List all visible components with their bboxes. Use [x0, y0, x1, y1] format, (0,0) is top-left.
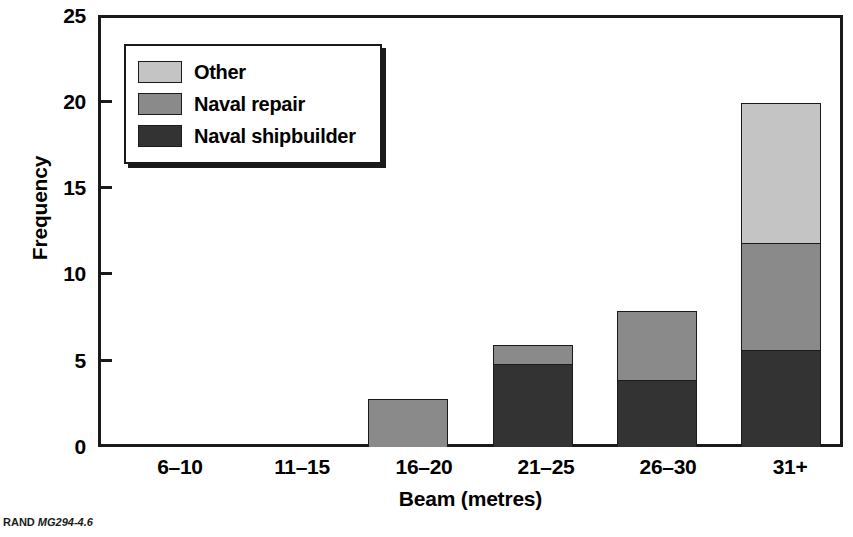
- x-tick-label-11-15: 11–15: [260, 455, 344, 479]
- bar-group-16-20: [368, 399, 448, 447]
- footer-document-id: MG294-4.6: [38, 516, 93, 528]
- bar-segment-naval-repair: [617, 311, 697, 380]
- bar-segment-naval-shipbuilder: [493, 364, 573, 447]
- x-tick-label-26-30: 26–30: [626, 455, 710, 479]
- figure-footer: RAND MG294-4.6: [3, 516, 93, 528]
- x-axis-title: Beam (metres): [98, 487, 843, 511]
- legend-swatch-naval-shipbuilder: [138, 125, 182, 147]
- bar-segment-naval-shipbuilder: [741, 350, 821, 447]
- legend-label-naval-shipbuilder: Naval shipbuilder: [194, 125, 356, 148]
- bar-group-31: [741, 103, 821, 447]
- legend-item-naval-repair: Naval repair: [138, 88, 370, 120]
- y-tick-label-25: 25: [34, 5, 86, 26]
- x-tick-label-31-plus: 31+: [748, 455, 832, 479]
- legend-item-naval-shipbuilder: Naval shipbuilder: [138, 120, 370, 152]
- bar-segment-other: [741, 103, 821, 243]
- legend-swatch-other: [138, 61, 182, 83]
- footer-publisher: RAND: [3, 516, 35, 528]
- y-tick-label-15: 15: [34, 177, 86, 198]
- y-tick-label-0: 0: [34, 436, 86, 457]
- chart-legend: Other Naval repair Naval shipbuilder: [124, 44, 382, 164]
- y-tick-label-20: 20: [34, 91, 86, 112]
- legend-item-other: Other: [138, 56, 370, 88]
- y-tick-label-5: 5: [34, 350, 86, 371]
- bar-group-21-25: [493, 345, 573, 447]
- x-tick-label-21-25: 21–25: [504, 455, 588, 479]
- bar-segment-naval-repair: [493, 345, 573, 364]
- bar-segment-naval-repair: [741, 243, 821, 350]
- legend-swatch-naval-repair: [138, 93, 182, 115]
- x-tick-label-6-10: 6–10: [138, 455, 222, 479]
- bar-segment-naval-repair: [368, 399, 448, 447]
- bar-group-26-30: [617, 311, 697, 448]
- y-tick-label-10: 10: [34, 263, 86, 284]
- chart-figure: Frequency 25 20 15 10 5 0 6–10 11–15 16–…: [0, 0, 853, 537]
- legend-label-other: Other: [194, 61, 246, 84]
- x-tick-label-16-20: 16–20: [382, 455, 466, 479]
- bar-segment-naval-shipbuilder: [617, 380, 697, 447]
- legend-label-naval-repair: Naval repair: [194, 93, 305, 116]
